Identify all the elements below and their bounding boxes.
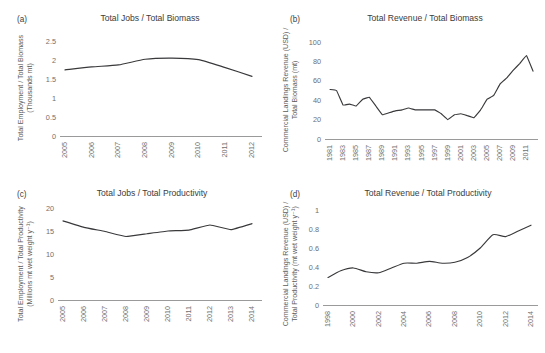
ytick-label-d-1: 0.2 [309, 282, 319, 291]
xtick-label-b-1: 1983 [338, 145, 347, 161]
xtick-label-b-0: 1981 [325, 145, 334, 161]
xtick-label-b-7: 1995 [417, 145, 426, 161]
panel-c: (c) Total Jobs / Total Productivity Tota… [0, 176, 272, 353]
ytick-label-d-4: 0.8 [309, 225, 319, 234]
xtick-label-c-4: 2009 [142, 306, 151, 322]
panel-c-xtick-labels: 2005200620072008200920102011201220132014 [58, 306, 256, 322]
xtick-label-d-7: 2012 [501, 311, 510, 327]
panel-a-data-line [65, 58, 252, 76]
ytick-label-c-4: 20 [46, 204, 54, 213]
panel-a-xtick-labels: 20052006200720082009201020112012 [60, 142, 256, 158]
panel-b-ylabel-line2: Total Biomass (mt) [291, 61, 299, 120]
xtick-label-d-6: 2010 [475, 311, 484, 327]
xtick-label-a-1: 2006 [87, 142, 96, 158]
xtick-label-a-5: 2010 [193, 142, 202, 158]
xtick-label-b-13: 2007 [495, 145, 504, 161]
xtick-label-c-9: 2014 [247, 306, 256, 322]
panel-a-tag: (a) [17, 15, 27, 24]
panel-d-ytick-labels: 00.20.40.60.81 [309, 206, 319, 310]
xtick-label-b-4: 1989 [377, 145, 386, 161]
panel-b-xtick-labels: 1981198319851987198919911993199519971999… [325, 145, 530, 161]
xtick-label-b-3: 1987 [364, 145, 373, 161]
ytick-label-a-0: 0 [52, 132, 56, 141]
xtick-label-b-9: 1999 [443, 145, 452, 161]
ytick-label-b-1: 20 [313, 115, 321, 124]
panel-d-ylabel-line2: Total Productivity (mt wet weight y⁻¹) [291, 206, 299, 322]
xtick-label-b-2: 1985 [351, 145, 360, 161]
ytick-label-b-2: 40 [313, 96, 321, 105]
xtick-label-b-5: 1991 [390, 145, 399, 161]
ytick-label-c-1: 5 [50, 273, 54, 282]
ytick-label-d-0: 0 [315, 301, 319, 310]
panel-c-ylabel-line1: Total Employment / Total Productivity [17, 206, 25, 322]
panel-d-xtick-labels: 199820002002200420062008201020122014 [323, 311, 535, 327]
ytick-label-a-2: 1 [52, 94, 56, 103]
xtick-label-a-0: 2005 [60, 142, 69, 158]
panel-c-tag: (c) [17, 190, 27, 199]
panel-d-title: Total Revenue / Total Productivity [365, 188, 493, 198]
xtick-label-b-10: 2001 [456, 145, 465, 161]
panel-a-ylabel-line1: Total Employment / Total Biomass [17, 34, 25, 141]
panel-b-tag: (b) [290, 15, 300, 24]
panel-a-ylabel-line2: (Thousands mt) [26, 63, 34, 113]
xtick-label-b-15: 2011 [521, 145, 530, 160]
ytick-label-a-3: 1.5 [46, 75, 56, 84]
xtick-label-d-5: 2008 [450, 311, 459, 327]
ytick-label-d-2: 0.4 [309, 263, 319, 272]
ytick-label-c-3: 15 [46, 227, 54, 236]
panel-a-ylabel: Total Employment / Total Biomass (Thousa… [17, 34, 34, 141]
figure-panel-grid: (a) Total Jobs / Total Biomass Total Emp… [0, 0, 545, 353]
xtick-label-c-7: 2012 [205, 306, 214, 322]
xtick-label-a-6: 2011 [220, 142, 229, 157]
panel-c-ylabel-line2: (Millions mt wet weight y⁻¹) [26, 221, 34, 307]
panel-b-title: Total Revenue / Total Biomass [367, 13, 482, 23]
panel-d: (d) Total Revenue / Total Productivity C… [273, 176, 545, 353]
xtick-label-c-8: 2013 [226, 306, 235, 322]
xtick-label-d-8: 2014 [526, 311, 535, 327]
xtick-label-c-3: 2008 [121, 306, 130, 322]
panel-c-ytick-labels: 05101520 [46, 204, 54, 305]
chart-c-svg: (c) Total Jobs / Total Productivity Tota… [0, 176, 272, 353]
xtick-label-d-4: 2006 [424, 311, 433, 327]
chart-d-svg: (d) Total Revenue / Total Productivity C… [273, 176, 545, 353]
panel-b-ytick-labels: 020406080100 [309, 38, 321, 144]
xtick-label-b-8: 1997 [430, 145, 439, 161]
xtick-label-a-3: 2008 [140, 142, 149, 158]
chart-a-svg: (a) Total Jobs / Total Biomass Total Emp… [0, 0, 272, 176]
xtick-label-d-3: 2004 [399, 311, 408, 327]
ytick-label-d-5: 1 [315, 206, 319, 215]
panel-d-tag: (d) [290, 190, 300, 199]
xtick-label-c-1: 2006 [79, 306, 88, 322]
ytick-label-c-0: 0 [50, 296, 54, 305]
panel-a-ytick-labels: 00.511.522.5 [46, 37, 56, 141]
chart-b-svg: (b) Total Revenue / Total Biomass Commer… [273, 0, 545, 176]
xtick-label-d-2: 2002 [374, 311, 383, 327]
xtick-label-d-0: 1998 [323, 311, 332, 327]
xtick-label-d-1: 2000 [348, 311, 357, 327]
panel-d-ylabel: Commercial Landings Revenue (USD) / Tota… [282, 202, 299, 327]
ytick-label-a-1: 0.5 [46, 113, 56, 122]
panel-b-ylabel-line1: Commercial Landings Revenue (USD) / [282, 28, 290, 153]
xtick-label-c-6: 2011 [184, 306, 193, 321]
xtick-label-a-4: 2009 [167, 142, 176, 158]
ytick-label-b-5: 100 [309, 38, 321, 47]
ytick-label-b-3: 60 [313, 76, 321, 85]
ytick-label-b-0: 0 [317, 135, 321, 144]
panel-b-data-line [330, 56, 533, 120]
ytick-label-a-4: 2 [52, 56, 56, 65]
xtick-label-c-5: 2010 [163, 306, 172, 322]
xtick-label-a-2: 2007 [113, 142, 122, 158]
xtick-label-c-2: 2007 [100, 306, 109, 322]
ytick-label-d-3: 0.6 [309, 244, 319, 253]
xtick-label-b-6: 1993 [403, 145, 412, 161]
panel-b-ylabel: Commercial Landings Revenue (USD) / Tota… [282, 28, 299, 153]
xtick-label-c-0: 2005 [58, 306, 67, 322]
xtick-label-b-12: 2005 [482, 145, 491, 161]
ytick-label-a-5: 2.5 [46, 37, 56, 46]
xtick-label-a-7: 2012 [247, 142, 256, 158]
panel-a-title: Total Jobs / Total Biomass [100, 13, 199, 23]
panel-d-ylabel-line1: Commercial Landings Revenue (USD) / [282, 202, 290, 327]
panel-b: (b) Total Revenue / Total Biomass Commer… [273, 0, 545, 176]
panel-c-data-line [63, 221, 252, 237]
panel-c-title: Total Jobs / Total Productivity [97, 188, 208, 198]
